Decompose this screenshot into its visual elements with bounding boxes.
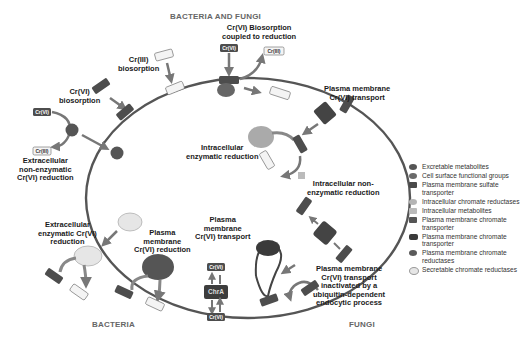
cr6-tag-intra xyxy=(292,134,308,154)
label-cr6-biosorption: Cr(VI)biosorption xyxy=(59,88,100,105)
intracellular-metabolite xyxy=(298,172,305,179)
legend-item: Plasma membrane sulfate transporter xyxy=(409,181,523,196)
excretable-metabolite-icon xyxy=(409,164,417,170)
legend-item: Plasma membrane chromate transporter xyxy=(409,216,523,231)
legend-item: Intracellular chromate reductases xyxy=(409,198,523,206)
cr3-tag-text: Cr(III) xyxy=(264,47,284,55)
label-biosorption-coupled: Cr(VI) Biosorptioncoupled to reduction xyxy=(222,24,296,41)
membrane-reductase-icon xyxy=(409,250,417,256)
title-fungi: FUNGI xyxy=(349,320,375,329)
cr3-tag-text: Cr(III) xyxy=(33,147,51,155)
cr6-tag-text: Cr(VI) xyxy=(207,313,225,321)
cr6-tag-membrane-left xyxy=(116,103,135,121)
chra-label: ChrA xyxy=(204,288,228,296)
label-extracellular-nonenzymatic: Extracellularnon-enzymaticCr(VI) reducti… xyxy=(17,157,74,183)
label-intracellular-enzymatic: Intracellularenzymatic reduction xyxy=(186,144,259,161)
label-pm-reduction: PlasmamembraneCr(VI) reduction xyxy=(134,229,191,255)
sulfate-transporter-icon xyxy=(409,182,417,188)
legend-item: Plasma membrane chromate transporter xyxy=(409,233,523,248)
label-intracellular-nonenzymatic: Intracellular non-enzymatic reduction xyxy=(307,180,380,197)
cr3-tag-inside-top xyxy=(269,86,290,100)
legend-item: Intracellular metabolites xyxy=(409,207,523,215)
cr6-tag-text: Cr(VI) xyxy=(207,263,225,271)
chromate-transporter xyxy=(312,220,337,245)
cr6-tag-text: Cr(VI) xyxy=(33,108,51,116)
sulfate-transporter xyxy=(313,101,337,125)
cr3-tag-intra xyxy=(259,150,275,170)
excretable-metabolite-outside xyxy=(66,124,79,137)
cr3-tag-membrane xyxy=(165,81,185,95)
cr6-tag-text: Cr(VI) xyxy=(220,44,238,52)
chromate-transporter-icon xyxy=(409,217,417,223)
chromate-transporter-vesicle-icon xyxy=(409,234,418,240)
secretable-reductase-outside xyxy=(74,246,102,266)
intracellular-metabolite-icon xyxy=(409,208,417,214)
cell-surface-group-top xyxy=(217,83,235,97)
cr6-tag-membrane-top xyxy=(219,76,239,84)
label-pm-transport-bottom: PlasmamembraneCr(VI) transport xyxy=(195,216,250,242)
title-bacteria: BACTERIA xyxy=(92,320,135,329)
excretable-metabolite-inside xyxy=(111,147,124,160)
cr6-tag-transport-inside xyxy=(296,196,313,215)
chromate-transporter-vesicle xyxy=(256,240,280,256)
secretable-reductase-icon xyxy=(409,267,419,275)
cr3-tag-extra-enz xyxy=(69,284,88,301)
label-extracellular-enzymatic: Extracellularenzymatic Cr(VI)reduction xyxy=(38,221,97,247)
title-bacteria-fungi: BACTERIA AND FUNGI xyxy=(170,12,261,21)
legend-item: Secretable chromate reductases xyxy=(409,266,523,274)
legend-item: Excretable metabolites xyxy=(409,163,523,171)
intracellular-reductase-icon xyxy=(409,199,417,205)
label-cr3-biosorption: Cr(III)biosorption xyxy=(118,56,159,73)
cell-surface-group-icon xyxy=(409,173,417,179)
legend-item: Cell surface functional groups xyxy=(409,172,523,180)
label-pm-transport-top: Plasma membraneCr(VI) transport xyxy=(324,85,390,102)
label-ubiquitin-endocytic: Plasma membraneCr(VI) transportinactivat… xyxy=(313,265,385,308)
legend: Excretable metabolites Cell surface func… xyxy=(409,163,523,275)
legend-item: Plasma membrane chromate reductases xyxy=(409,249,523,264)
